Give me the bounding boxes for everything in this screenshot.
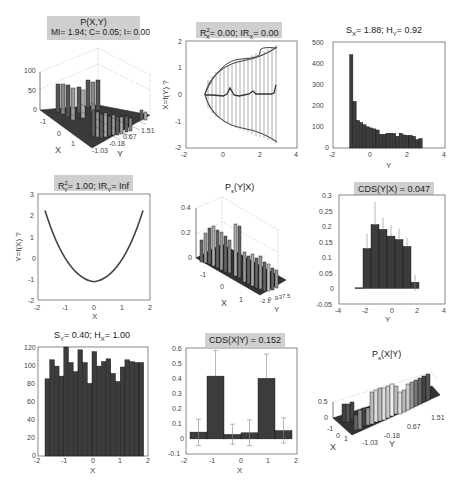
- joint-3d-plot: 100 50 0 -1 0 1 -1.03 -0.18 0.67 1.51 X …: [0, 0, 155, 160]
- svg-text:2: 2: [405, 151, 409, 158]
- panel-y-histogram: SX= 1.88; HY= 0.92: [300, 0, 459, 175]
- svg-text:500: 500: [312, 39, 324, 46]
- svg-text:X: X: [92, 312, 98, 320]
- svg-text:X: X: [237, 466, 243, 475]
- svg-text:300: 300: [312, 81, 324, 88]
- svg-text:0.5: 0.5: [172, 360, 182, 367]
- svg-text:0: 0: [390, 307, 394, 314]
- svg-text:2: 2: [415, 307, 419, 314]
- svg-text:100: 100: [312, 123, 324, 130]
- svg-text:0.5: 0.5: [318, 398, 328, 405]
- svg-text:-1.03: -1.03: [362, 439, 378, 446]
- svg-text:Y: Y: [274, 305, 280, 314]
- y-histogram-plot: 500 400 300 200 100 0 -2 0 2 4 Y: [300, 0, 459, 175]
- svg-text:0: 0: [92, 304, 96, 311]
- svg-text:0: 0: [336, 432, 340, 439]
- svg-text:0: 0: [368, 151, 372, 158]
- svg-text:1: 1: [178, 64, 182, 71]
- panel-x-histogram: SY= 0.40; HX= 1.00 120: [0, 320, 155, 490]
- svg-text:0: 0: [324, 414, 328, 421]
- svg-text:50: 50: [28, 87, 36, 94]
- svg-text:4: 4: [294, 151, 298, 158]
- svg-text:1: 1: [30, 234, 34, 241]
- svg-text:-4: -4: [335, 307, 341, 314]
- svg-text:0.6: 0.6: [172, 345, 182, 352]
- svg-text:0.05: 0.05: [319, 270, 333, 277]
- x-given-y-plot: 2 1 0 -1 -2 -2 0 2 4 X=f(Y) ?: [150, 0, 305, 160]
- svg-text:0: 0: [57, 130, 61, 137]
- svg-text:-2: -2: [175, 144, 181, 151]
- y-given-x-plot: 3 2 1 0 -1 -2 -2 -1 0 1 2 X Y=f(X) ?: [0, 160, 155, 320]
- svg-text:-1: -1: [61, 457, 67, 464]
- svg-text:-2: -2: [329, 151, 335, 158]
- svg-text:-1.03: -1.03: [92, 147, 108, 154]
- svg-text:0.4: 0.4: [172, 375, 182, 382]
- svg-text:0.67: 0.67: [407, 423, 421, 430]
- svg-text:X: X: [330, 442, 336, 452]
- svg-text:X: X: [55, 145, 61, 155]
- svg-text:0: 0: [32, 255, 36, 262]
- svg-text:1: 1: [266, 457, 270, 464]
- svg-text:-2: -2: [28, 297, 34, 304]
- svg-text:0.2: 0.2: [181, 229, 191, 236]
- svg-text:X: X: [90, 466, 96, 475]
- svg-text:0.4: 0.4: [181, 204, 191, 211]
- svg-text:X=f(Y) ?: X=f(Y) ?: [161, 80, 170, 110]
- svg-text:Y: Y: [117, 149, 123, 159]
- panel-cds-y-given-x: CDS(Y|X) = 0.047 0.3 0.25 0.2 0.15 0.1 0…: [300, 175, 459, 325]
- svg-text:-2: -2: [34, 457, 40, 464]
- cds-y-given-x-plot: 0.3 0.25 0.2 0.15 0.1 0.05 0 -0.05 -4 -2…: [300, 175, 459, 325]
- svg-text:0: 0: [221, 151, 225, 158]
- svg-text:2: 2: [30, 212, 34, 219]
- panel-x-given-y-regression: R2X= 0.00; IRX= 0.00 2 1 0 -1 -2 -2 0 2 …: [150, 0, 305, 160]
- cds-x-given-y-plot: 0.6 0.5 0.4 0.3 0.2 0.1 0 -0.1 -2 -1 0 1…: [150, 320, 305, 490]
- svg-text:-1: -1: [209, 457, 215, 464]
- svg-text:0.3: 0.3: [322, 192, 332, 199]
- panel-cds-x-given-y: CDS(X|Y) = 0.152 0.6 0.: [150, 320, 305, 490]
- svg-text:120: 120: [24, 344, 36, 351]
- svg-text:-1: -1: [175, 118, 181, 125]
- svg-text:200: 200: [312, 102, 324, 109]
- svg-text:-1: -1: [28, 276, 34, 283]
- svg-text:1: 1: [71, 140, 75, 147]
- svg-text:-0.1: -0.1: [168, 450, 180, 457]
- svg-text:Y: Y: [386, 161, 392, 170]
- cond-x-given-y-3d-plot: 0.5 0 -1 0 1 X -1.03 -0.18 0.67 1.51 Y: [300, 320, 459, 490]
- svg-text:400: 400: [312, 60, 324, 67]
- svg-text:0: 0: [33, 106, 37, 113]
- svg-text:1.51: 1.51: [431, 414, 445, 421]
- svg-text:0.1: 0.1: [172, 420, 182, 427]
- svg-text:2: 2: [258, 151, 262, 158]
- svg-text:4: 4: [442, 307, 446, 314]
- svg-text:4: 4: [442, 151, 446, 158]
- svg-text:X: X: [221, 298, 227, 308]
- svg-text:0: 0: [180, 435, 184, 442]
- panel-cond-x-given-y-3d: Ps(X|Y) 0.5 0 -1 0 1 X -1.03 -0.18: [300, 320, 459, 490]
- svg-text:-2: -2: [181, 457, 187, 464]
- svg-text:-1: -1: [40, 118, 46, 125]
- svg-text:-0.18: -0.18: [384, 432, 400, 439]
- svg-text:0: 0: [178, 91, 182, 98]
- svg-text:-0.18: -0.18: [109, 140, 125, 147]
- svg-text:-2: -2: [34, 304, 40, 311]
- x-histogram-plot: 120 100 80 60 40 20 0 -2 -1 0 1 2 X: [0, 320, 155, 490]
- svg-text:0.67: 0.67: [123, 133, 137, 140]
- svg-text:Y: Y: [389, 439, 395, 449]
- panel-joint-3d: P(X,Y) MI= 1.94; C= 0.05; I= 0.00: [0, 0, 155, 160]
- svg-text:0.1: 0.1: [322, 254, 332, 261]
- svg-text:0.2: 0.2: [322, 223, 332, 230]
- svg-text:80: 80: [27, 380, 35, 387]
- panel-cond-y-given-x-3d: Ps(Y|X) 0.4 0.2 0 -1 0 1: [150, 160, 305, 320]
- svg-text:2: 2: [178, 38, 182, 45]
- svg-text:1: 1: [239, 296, 243, 303]
- svg-text:1: 1: [344, 435, 348, 442]
- svg-text:60: 60: [27, 398, 35, 405]
- svg-text:0: 0: [188, 254, 192, 261]
- svg-text:Y=f(X) ?: Y=f(X) ?: [14, 232, 23, 262]
- svg-text:0.25: 0.25: [319, 208, 333, 215]
- svg-text:0: 0: [91, 457, 95, 464]
- svg-text:-0.05: -0.05: [316, 301, 332, 308]
- svg-text:3: 3: [30, 191, 34, 198]
- svg-text:0: 0: [239, 457, 243, 464]
- svg-text:0: 0: [268, 296, 272, 302]
